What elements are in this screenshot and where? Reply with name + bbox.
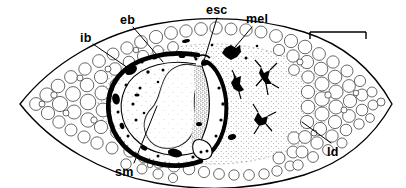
label-ib: ib <box>80 32 92 45</box>
label-eb: eb <box>120 14 135 27</box>
esc-lobe-granule-1 <box>200 151 203 154</box>
melanin-speck-2 <box>196 122 202 126</box>
esc-lobe-granule-2 <box>206 150 209 153</box>
figure-container: ib eb esc mel sm ld <box>0 0 406 188</box>
melanin-speck-6 <box>256 45 259 48</box>
histological-section-drawing <box>0 0 406 188</box>
melanin-speck-5 <box>211 44 214 47</box>
label-ld: ld <box>327 146 339 159</box>
label-esc: esc <box>206 4 227 17</box>
melanin-speck-4 <box>245 57 248 60</box>
label-sm: sm <box>115 166 133 179</box>
label-mel: mel <box>246 13 268 26</box>
